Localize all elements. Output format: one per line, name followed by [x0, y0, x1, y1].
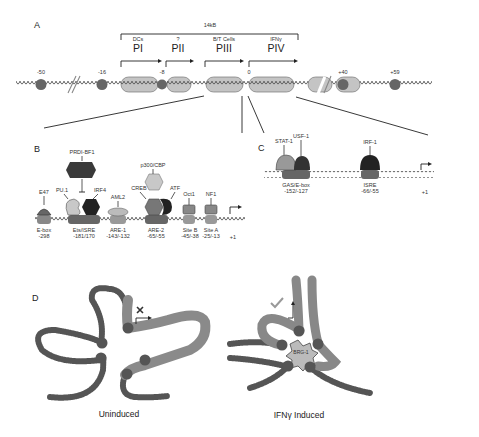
element-label: Ets/ISRE-181/170: [73, 227, 95, 240]
promoter-3: PIII: [216, 42, 232, 54]
span-label: 14kB: [204, 22, 217, 28]
factor-label-aml2: AML2: [111, 194, 125, 200]
element-label: E-box-298: [37, 227, 51, 240]
factor-label-creb: CREB: [131, 185, 146, 191]
element-label: Site B-45/-38: [181, 227, 198, 240]
factor-label-stat1: STAT-1: [275, 138, 293, 144]
tss-label: +1: [422, 189, 428, 195]
position-label: -50: [37, 69, 45, 75]
panel-label-b: B: [34, 144, 40, 154]
caption-induced: IFNγ Induced: [274, 410, 325, 420]
factor-label-irf4: IRF4: [94, 187, 106, 193]
diagram-graphics: [0, 0, 479, 437]
position-label: 0: [247, 69, 250, 75]
factor-label-pu1: PU.1: [56, 187, 68, 193]
element-label: ARE-2-65/-55: [147, 227, 164, 240]
panel-label-a: A: [34, 20, 40, 30]
panel-label-c: C: [258, 143, 265, 153]
hub-label: BRG-1: [293, 350, 308, 356]
position-label: +40: [338, 69, 347, 75]
factor-label-p300: p300/CBP: [140, 162, 165, 168]
factor-label-e47: E47: [39, 189, 49, 195]
factor-label-irf1: IRF-1: [363, 139, 377, 145]
element-label: Site A-25/-13: [202, 227, 219, 240]
position-label: +59: [390, 69, 399, 75]
element-label: GAS/E-box-152/-127: [282, 182, 310, 195]
factor-label-usf1: USF-1: [293, 133, 309, 139]
position-label: -16: [98, 69, 106, 75]
panel-label-d: D: [32, 293, 39, 303]
promoter-1: PI: [133, 42, 143, 54]
factor-label-oct1: Oct1: [183, 191, 195, 197]
caption-uninduced: Uninduced: [99, 409, 140, 419]
position-label: -8: [160, 69, 165, 75]
factor-label-prdi-bf1: PRDI-BF1: [69, 149, 94, 155]
factor-label-atf: ATF: [170, 185, 180, 191]
element-label: ISRE-66/-55: [361, 182, 378, 195]
promoter-2: PII: [172, 42, 185, 54]
element-label: ARE-1-143/-132: [106, 227, 130, 240]
promoter-4: PIV: [268, 42, 285, 54]
tss-label: +1: [230, 234, 236, 240]
factor-label-nf1: NF1: [206, 191, 216, 197]
